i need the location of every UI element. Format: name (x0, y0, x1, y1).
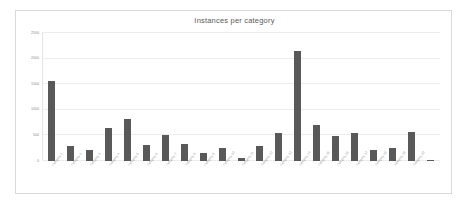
bar[interactable] (124, 119, 131, 161)
x-label-slot: category 16 (326, 163, 345, 197)
x-axis-labels: category 1category 2category 3category 4… (42, 163, 440, 197)
bar-slot (250, 33, 269, 161)
x-label-slot: category 6 (137, 163, 156, 197)
bar[interactable] (313, 125, 320, 161)
x-label-slot: category 11 (232, 163, 251, 197)
bar-slot (194, 33, 213, 161)
chart-container: Instances per category 05001000150020002… (15, 10, 452, 194)
bar-slot (364, 33, 383, 161)
bar-slot (345, 33, 364, 161)
x-label-slot: category 7 (156, 163, 175, 197)
x-label-slot: category 14 (288, 163, 307, 197)
bar-slot (232, 33, 251, 161)
y-axis-tick-label: 2500 (31, 31, 39, 35)
bar[interactable] (389, 148, 396, 161)
bar-slot (213, 33, 232, 161)
x-label-slot (421, 163, 440, 197)
x-label-slot: category 4 (99, 163, 118, 197)
x-label-slot: category 8 (175, 163, 194, 197)
chart-title: Instances per category (16, 16, 453, 25)
bar-slot (421, 33, 440, 161)
bar-slot (326, 33, 345, 161)
x-label-slot: category 2 (61, 163, 80, 197)
x-label-slot: category 19 (383, 163, 402, 197)
x-label-slot: category 9 (194, 163, 213, 197)
bar[interactable] (351, 133, 358, 161)
bar-slot (288, 33, 307, 161)
y-axis-tick-label: 2000 (31, 56, 39, 60)
x-label-slot: category 20 (402, 163, 421, 197)
x-label-slot: category 15 (307, 163, 326, 197)
bar[interactable] (105, 128, 112, 161)
bar-slot (175, 33, 194, 161)
x-label-slot: category 10 (213, 163, 232, 197)
plot-area: 05001000150020002500 (42, 33, 440, 161)
bar[interactable] (294, 51, 301, 161)
bar[interactable] (427, 160, 434, 161)
x-label-slot: category 17 (345, 163, 364, 197)
x-label-slot: category 1 (42, 163, 61, 197)
bar[interactable] (408, 132, 415, 161)
bar[interactable] (48, 81, 55, 161)
bar[interactable] (162, 135, 169, 161)
bar-slot (156, 33, 175, 161)
bar-slot (61, 33, 80, 161)
x-label-slot: category 3 (80, 163, 99, 197)
bar-slot (307, 33, 326, 161)
bar-slot (269, 33, 288, 161)
bar-slot (80, 33, 99, 161)
bar[interactable] (181, 144, 188, 161)
bar[interactable] (275, 133, 282, 161)
x-label-slot: category 12 (250, 163, 269, 197)
y-axis-tick-label: 1500 (31, 82, 39, 86)
bar[interactable] (332, 136, 339, 161)
bar-slot (118, 33, 137, 161)
y-axis-tick-label: 500 (33, 133, 39, 137)
x-label-slot: category 5 (118, 163, 137, 197)
y-axis-tick-label: 1000 (31, 107, 39, 111)
bar-slot (383, 33, 402, 161)
bar-slot (42, 33, 61, 161)
y-axis-tick-label: 0 (37, 159, 39, 163)
x-label-slot: category 13 (269, 163, 288, 197)
bar-slot (99, 33, 118, 161)
bar-series (42, 33, 440, 161)
bar-slot (137, 33, 156, 161)
bar-slot (402, 33, 421, 161)
x-label-slot: category 18 (364, 163, 383, 197)
